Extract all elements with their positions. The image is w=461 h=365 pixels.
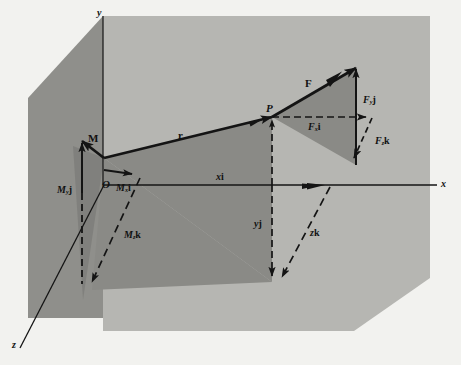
- Fyj-value: F: [363, 94, 370, 105]
- Fzk-unit: k: [384, 135, 390, 146]
- zk-label: zk: [310, 228, 319, 238]
- Fyj-unit: j: [372, 94, 375, 105]
- force-vector-label: F: [305, 78, 312, 89]
- zk-unit: k: [314, 227, 320, 238]
- Fzk-label: Fzk: [375, 136, 390, 147]
- Myj-value: M: [57, 184, 66, 195]
- Fxi-unit: i: [318, 121, 321, 132]
- Mzk-label: Mzk: [124, 230, 141, 241]
- y-axis-label: y: [97, 8, 101, 18]
- origin-label: O: [102, 179, 110, 190]
- Myj-unit: j: [69, 184, 72, 195]
- x-axis-label: x: [441, 179, 446, 189]
- Fxi-value: F: [308, 121, 315, 132]
- yj-unit: j: [258, 218, 261, 229]
- moment-vector-label: M: [88, 133, 98, 144]
- Myj-label: Myj: [57, 185, 72, 196]
- Fzk-value: F: [375, 135, 382, 146]
- yj-label: yj: [254, 219, 262, 229]
- Mxi-label: Mxi: [116, 183, 131, 194]
- Mxi-value: M: [116, 182, 125, 193]
- Fyj-label: Fyj: [363, 95, 376, 106]
- Mxi-unit: i: [128, 182, 131, 193]
- point-p-label: P: [266, 103, 273, 114]
- xi-label: xi: [216, 172, 224, 182]
- z-axis-label: z: [12, 340, 16, 350]
- Mzk-unit: k: [135, 229, 141, 240]
- xi-unit: i: [221, 171, 224, 182]
- vector-mechanics-diagram: [0, 0, 461, 365]
- Mzk-value: M: [124, 229, 133, 240]
- position-vector-label: r: [178, 130, 183, 141]
- Fxi-label: Fxi: [308, 122, 321, 133]
